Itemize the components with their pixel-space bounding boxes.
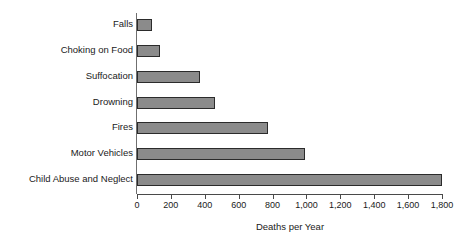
bar-chart: FallsChoking on FoodSuffocationDrowningF… [0, 0, 469, 246]
bar-category-label: Choking on Food [61, 44, 133, 56]
x-axis-tick [239, 194, 240, 199]
x-axis-line [137, 194, 443, 195]
bar [137, 148, 305, 160]
x-axis-tick [340, 194, 341, 199]
bar-row: Choking on Food [137, 39, 442, 65]
x-axis-tick-label: 1,600 [397, 200, 420, 211]
x-axis-tick-label: 600 [231, 200, 246, 211]
bar [137, 122, 268, 134]
bar-row: Falls [137, 13, 442, 39]
x-axis-tick [408, 194, 409, 199]
bar-row: Fires [137, 116, 442, 142]
x-axis-title: Deaths per Year [137, 221, 443, 233]
x-axis-tick-label: 0 [134, 200, 139, 211]
x-axis-tick-label: 1,000 [295, 200, 318, 211]
bar [137, 174, 442, 186]
bar-category-label: Drowning [93, 96, 133, 108]
x-axis-tick [374, 194, 375, 199]
bar-category-label: Falls [113, 18, 133, 30]
x-axis-tick-label: 200 [163, 200, 178, 211]
x-axis-tick-label: 800 [265, 200, 280, 211]
x-axis-tick [273, 194, 274, 199]
x-axis-tick-label: 1,400 [363, 200, 386, 211]
bar [137, 19, 152, 31]
bar-category-label: Motor Vehicles [71, 147, 133, 159]
x-axis-tick-label: 1,800 [431, 200, 454, 211]
bar-row: Child Abuse and Neglect [137, 168, 442, 194]
x-axis-tick [205, 194, 206, 199]
x-axis-tick-label: 1,200 [329, 200, 352, 211]
bar [137, 45, 160, 57]
bar-row: Suffocation [137, 65, 442, 91]
bar-row: Motor Vehicles [137, 142, 442, 168]
bar-category-label: Suffocation [86, 70, 133, 82]
x-axis-tick [442, 194, 443, 199]
plot-area: FallsChoking on FoodSuffocationDrowningF… [137, 13, 442, 194]
bar [137, 97, 215, 109]
x-axis-tick-label: 400 [197, 200, 212, 211]
bar-row: Drowning [137, 91, 442, 117]
bar-category-label: Child Abuse and Neglect [29, 173, 133, 185]
bar [137, 71, 200, 83]
bar-category-label: Fires [112, 121, 133, 133]
x-axis-tick [306, 194, 307, 199]
x-axis-tick [137, 194, 138, 199]
x-axis-tick [171, 194, 172, 199]
